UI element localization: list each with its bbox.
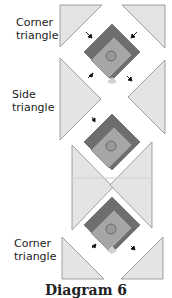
corner-triangle-bottom-right <box>121 237 163 279</box>
label-line: triangle <box>16 29 58 42</box>
corner-triangle-bottom-left <box>62 237 104 279</box>
label-line: triangle <box>14 250 56 263</box>
label-line: Side <box>12 88 54 101</box>
label-corner-triangle-top: Corner triangle <box>16 16 58 42</box>
block-center-circle <box>106 224 116 234</box>
label-corner-triangle-bottom: Corner triangle <box>14 237 56 263</box>
label-line: triangle <box>12 101 54 114</box>
quilt-block-2 <box>84 114 140 170</box>
label-side-triangle: Side triangle <box>12 88 54 114</box>
side-triangle-left-upper <box>60 58 101 140</box>
block-center-circle <box>106 141 116 151</box>
label-line: Corner <box>16 16 58 29</box>
diagram-caption: Diagram 6 <box>0 282 172 298</box>
block-center-circle <box>106 51 116 61</box>
label-line: Corner <box>14 237 56 250</box>
